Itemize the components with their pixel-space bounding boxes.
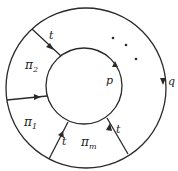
outer-circle-label: q bbox=[168, 75, 175, 88]
diagram-svg: t t t p q π2 π1 πm bbox=[0, 0, 178, 171]
edge-top-left bbox=[32, 29, 61, 56]
ellipsis-dot-1 bbox=[112, 37, 115, 40]
ellipsis-dot-2 bbox=[125, 44, 128, 47]
arrow-left-icon bbox=[34, 94, 41, 100]
inner-circle-label: p bbox=[106, 74, 113, 87]
edge-label-top: t bbox=[49, 29, 54, 42]
region-pi1-label: π1 bbox=[23, 115, 37, 131]
ellipsis-dot-3 bbox=[135, 58, 138, 61]
edge-left bbox=[7, 96, 47, 100]
annulus-diagram: t t t p q π2 π1 πm bbox=[0, 0, 178, 171]
region-pim-label: πm bbox=[80, 135, 97, 151]
arrow-top-left-icon bbox=[46, 43, 54, 50]
edge-label-bottom-left: t bbox=[62, 135, 67, 148]
edge-label-bottom-right: t bbox=[116, 123, 121, 136]
region-pi2-label: π2 bbox=[24, 58, 38, 74]
